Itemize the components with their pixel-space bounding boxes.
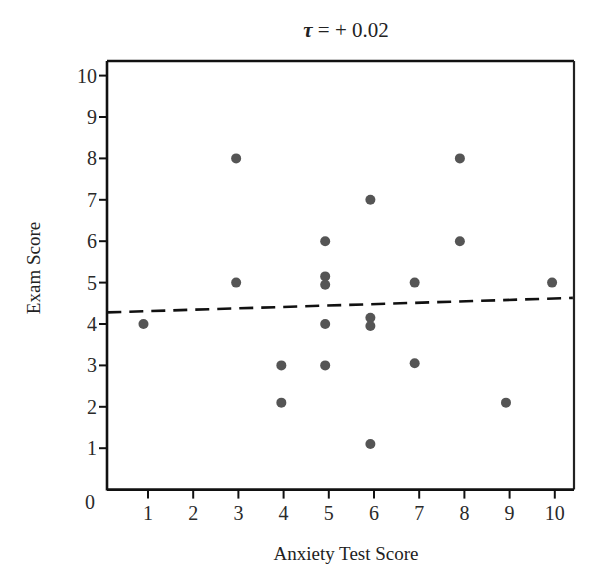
data-point-18 [455, 236, 465, 246]
data-point-19 [501, 398, 511, 408]
data-point-2 [231, 153, 241, 163]
data-point-14 [365, 439, 375, 449]
trend-line [107, 298, 573, 312]
y-tick-label-3: 3 [87, 354, 97, 376]
data-point-10 [320, 360, 330, 370]
y-axis-label: Exam Score [23, 222, 44, 314]
y-tick-label-10: 10 [77, 65, 97, 87]
y-tick-label-5: 5 [87, 272, 97, 294]
data-point-9 [320, 319, 330, 329]
x-axis-label: Anxiety Test Score [273, 543, 418, 564]
x-tick-label-9: 9 [505, 502, 515, 524]
y-tick-label-1: 1 [87, 437, 97, 459]
scatter-chart: τ = + 0.02 12345678910 12345678910 0 Anx… [0, 0, 594, 587]
x-tick-label-4: 4 [279, 502, 289, 524]
y-tick-label-7: 7 [87, 189, 97, 211]
title-value: = + 0.02 [313, 18, 389, 42]
x-tick-label-10: 10 [545, 502, 565, 524]
x-tick-label-1: 1 [143, 502, 153, 524]
data-point-4 [276, 360, 286, 370]
data-point-3 [231, 278, 241, 288]
y-tick-label-2: 2 [87, 396, 97, 418]
trend-line-group [107, 298, 573, 312]
y-tick-label-9: 9 [87, 106, 97, 128]
y-axis-ticks: 12345678910 [77, 65, 107, 460]
data-point-13 [365, 321, 375, 331]
data-point-1 [138, 319, 148, 329]
data-point-20 [547, 278, 557, 288]
chart-title: τ = + 0.02 [303, 18, 389, 42]
x-axis-ticks: 12345678910 [143, 490, 565, 524]
x-tick-label-8: 8 [459, 502, 469, 524]
origin-label: 0 [85, 491, 95, 513]
x-tick-label-3: 3 [233, 502, 243, 524]
x-tick-label-7: 7 [414, 502, 424, 524]
data-point-6 [320, 236, 330, 246]
data-point-15 [410, 278, 420, 288]
y-tick-label-6: 6 [87, 230, 97, 252]
x-tick-label-2: 2 [188, 502, 198, 524]
data-point-17 [455, 153, 465, 163]
data-point-5 [276, 398, 286, 408]
y-tick-label-4: 4 [87, 313, 97, 335]
data-point-11 [365, 195, 375, 205]
y-tick-label-8: 8 [87, 147, 97, 169]
data-point-8 [320, 280, 330, 290]
x-tick-label-6: 6 [369, 502, 379, 524]
svg-text:τ = + 0.02: τ = + 0.02 [303, 18, 389, 42]
x-tick-label-5: 5 [324, 502, 334, 524]
plot-frame [107, 61, 574, 491]
data-point-16 [410, 358, 420, 368]
